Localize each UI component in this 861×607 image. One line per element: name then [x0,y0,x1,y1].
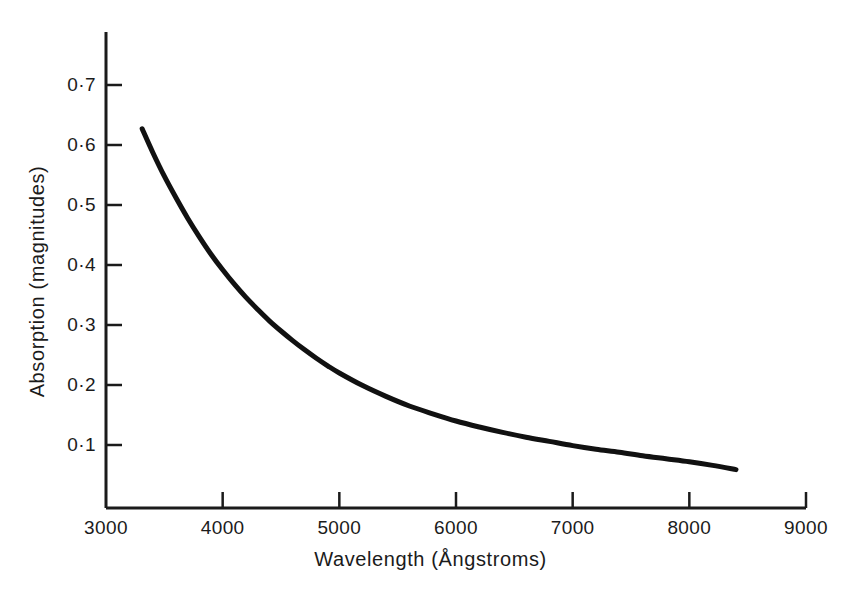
x-axis-tick-label: 4000 [201,517,245,539]
x-axis-ticks [223,492,806,508]
x-axis-tick-label: 6000 [434,517,478,539]
absorption-curve [142,129,736,470]
y-axis-tick-label: 0·7 [34,74,96,96]
x-axis-tick-label: 5000 [317,517,361,539]
x-axis-tick-label: 3000 [84,517,128,539]
y-axis-ticks [106,85,122,445]
figure-container: 0·10·20·30·40·50·60·7 300040005000600070… [0,0,861,607]
x-axis-tick-label: 7000 [551,517,595,539]
y-axis-title: Absorption (magnitudes) [26,122,49,442]
axis-lines [106,32,806,508]
chart-plot-area [0,0,861,607]
x-axis-title: Wavelength (Ångstroms) [0,548,861,571]
x-axis-tick-label: 9000 [784,517,828,539]
x-axis-tick-label: 8000 [667,517,711,539]
